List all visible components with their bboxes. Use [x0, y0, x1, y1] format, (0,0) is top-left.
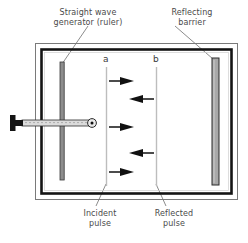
incident-arrow [109, 77, 134, 85]
barrier-leader-line [175, 26, 213, 59]
generator-handle-block [10, 115, 16, 131]
incident-arrow [109, 168, 134, 176]
reflected-arrow [129, 149, 154, 157]
incident-arrow-group [109, 77, 134, 176]
diagram-vector-layer [0, 0, 248, 243]
reflected-arrow-group [129, 95, 154, 157]
generator-handle-stem [15, 120, 23, 126]
reflected-leader-line [156, 184, 166, 206]
incident-leader-line [96, 184, 106, 206]
generator-arm [22, 120, 95, 126]
reflected-arrow [129, 95, 154, 103]
generator-leader-line [62, 26, 88, 64]
reflecting-barrier [212, 58, 219, 185]
incident-arrow [109, 123, 134, 131]
generator-pivot-center [91, 122, 94, 125]
wave-reflection-diagram: Straight wave generator (ruler) Reflecti… [0, 0, 248, 243]
